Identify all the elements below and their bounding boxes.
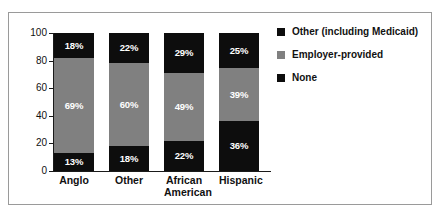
bar-segment-other: 22% bbox=[109, 33, 149, 63]
bar-segment-value-label: 60% bbox=[120, 100, 139, 110]
x-axis-category-label: AfricanAmerican bbox=[164, 175, 204, 198]
bar-segment-employer: 39% bbox=[219, 68, 259, 122]
legend-item: None bbox=[277, 73, 427, 83]
bar-segment-none: 36% bbox=[219, 121, 259, 171]
y-axis-tick-label: 60 bbox=[36, 83, 47, 93]
bar-segment-employer: 49% bbox=[164, 73, 204, 141]
chart-figure: 020406080100 18%69%13%22%60%18%29%49%22%… bbox=[8, 12, 432, 205]
y-axis-tick-mark bbox=[49, 61, 53, 62]
y-axis-tick-label: 20 bbox=[36, 138, 47, 148]
bar-segment-none: 18% bbox=[109, 146, 149, 171]
x-axis-category-label: Hispanic bbox=[219, 175, 259, 187]
bar-segment-other: 29% bbox=[164, 33, 204, 73]
x-axis-category-label-line1: Anglo bbox=[54, 175, 94, 187]
bar-segment-value-label: 18% bbox=[120, 154, 139, 164]
y-axis-tick-label: 0 bbox=[41, 166, 47, 176]
legend-swatch-employer bbox=[277, 51, 285, 59]
x-axis-category-label: Anglo bbox=[54, 175, 94, 187]
bar-segment-value-label: 18% bbox=[65, 41, 84, 51]
y-axis-tick-mark bbox=[49, 33, 53, 34]
bar-segment-value-label: 49% bbox=[175, 102, 194, 112]
x-axis-category-label-line2: American bbox=[164, 187, 204, 199]
y-axis-tick-mark bbox=[49, 88, 53, 89]
y-axis-tick-label: 100 bbox=[30, 28, 47, 38]
x-axis-category-label-line1: Other bbox=[109, 175, 149, 187]
x-axis-category-label-line1: African bbox=[164, 175, 204, 187]
stacked-bar: 22%60%18% bbox=[109, 33, 149, 171]
bar-segment-none: 13% bbox=[54, 153, 94, 171]
bar-segment-none: 22% bbox=[164, 141, 204, 171]
bar-segment-other: 25% bbox=[219, 33, 259, 68]
legend-item-label: Other (including Medicaid) bbox=[292, 27, 418, 37]
legend-swatch-other bbox=[277, 28, 285, 36]
legend-item: Employer-provided bbox=[277, 50, 427, 60]
bar-segment-value-label: 22% bbox=[120, 43, 139, 53]
bar-segment-value-label: 39% bbox=[230, 90, 249, 100]
bar-segment-value-label: 36% bbox=[230, 141, 249, 151]
bar-segment-value-label: 69% bbox=[65, 101, 84, 111]
legend-item-label: None bbox=[292, 73, 317, 83]
y-axis-tick-mark bbox=[49, 143, 53, 144]
legend-swatch-none bbox=[277, 74, 285, 82]
stacked-bar: 18%69%13% bbox=[54, 33, 94, 171]
bar-segment-value-label: 25% bbox=[230, 46, 249, 56]
y-axis-tick-label: 80 bbox=[36, 56, 47, 66]
y-axis-tick-mark bbox=[49, 171, 53, 172]
legend-item-label: Employer-provided bbox=[292, 50, 383, 60]
bar-segment-employer: 69% bbox=[54, 58, 94, 153]
bar-segment-other: 18% bbox=[54, 33, 94, 58]
bar-segment-value-label: 29% bbox=[175, 48, 194, 58]
bar-segment-value-label: 13% bbox=[65, 157, 84, 167]
bar-segment-employer: 60% bbox=[109, 63, 149, 146]
bar-segment-value-label: 22% bbox=[175, 151, 194, 161]
chart-legend: Other (including Medicaid)Employer-provi… bbox=[277, 27, 427, 96]
stacked-bar: 29%49%22% bbox=[164, 33, 204, 171]
legend-item: Other (including Medicaid) bbox=[277, 27, 427, 37]
plot-area: 020406080100 18%69%13%22%60%18%29%49%22%… bbox=[53, 33, 271, 171]
y-axis-tick-mark bbox=[49, 116, 53, 117]
stacked-bar: 25%39%36% bbox=[219, 33, 259, 171]
x-axis-line bbox=[53, 171, 271, 172]
y-axis-tick-label: 40 bbox=[36, 111, 47, 121]
x-axis-category-label-line1: Hispanic bbox=[219, 175, 259, 187]
x-axis-category-label: Other bbox=[109, 175, 149, 187]
